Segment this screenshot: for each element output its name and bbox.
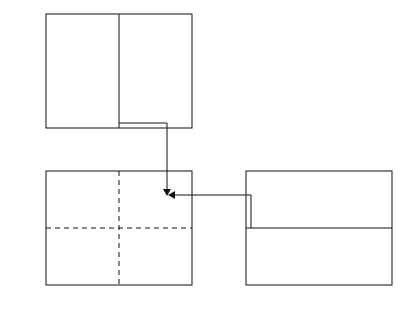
phase-plane-panel [46, 171, 192, 285]
figure [0, 0, 408, 321]
time-response-v-panel [246, 171, 392, 285]
time-response-x-panel [46, 14, 192, 128]
connector-arrows [163, 123, 251, 228]
